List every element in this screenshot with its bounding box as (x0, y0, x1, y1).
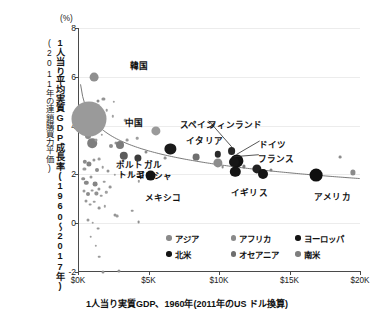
y-axis-title-sub: (2011年の連鎖購買力平価) (45, 38, 54, 173)
y-tick-label: 6 (56, 72, 76, 82)
x-axis-title: 1人当り実質GDP、1960年(2011年のUS ドル換算) (0, 297, 374, 310)
y-tick-label: 0 (56, 218, 76, 228)
y-tick-label: 8 (56, 23, 76, 33)
chart-root: 1人当り平均実質GDP成長率(1960〜2017年) (2011年の連鎖購買力平… (0, 0, 374, 320)
x-tick-label: $10K (202, 276, 236, 285)
x-tick-label: $15K (273, 276, 307, 285)
legend-marker-icon (295, 251, 301, 257)
legend-marker-icon (166, 251, 172, 257)
leader-line-フランス (234, 155, 259, 157)
legend-marker-icon (295, 235, 301, 241)
legend-marker-icon (231, 251, 237, 257)
point-label-ギリシャ: ギリシャ (136, 169, 172, 181)
legend-label: 南米 (304, 248, 320, 260)
leader-line-ドイツ (237, 141, 260, 154)
legend-item-北米[interactable]: 北米 (166, 248, 229, 260)
x-tick-label: $0K (61, 276, 95, 285)
legend-item-アフリカ[interactable]: アフリカ (231, 232, 294, 244)
point-label-韓国: 韓国 (130, 59, 148, 71)
y-tick-label: 2 (56, 169, 76, 179)
point-label-中国: 中国 (125, 116, 143, 128)
legend-label: オセアニア (239, 248, 279, 260)
x-tick-label: $5K (132, 276, 166, 285)
point-label-フランス: フランス (258, 152, 294, 164)
legend-item-オセアニア[interactable]: オセアニア (231, 248, 294, 260)
point-label-イギリス: イギリス (231, 186, 267, 198)
x-tick-label: $20K (343, 276, 374, 285)
legend-item-南米[interactable]: 南米 (295, 248, 358, 260)
point-label-ドイツ: ドイツ (259, 138, 286, 150)
legend-label: アフリカ (239, 232, 271, 244)
point-label-フィンランド: フィンランド (208, 118, 263, 130)
legend-label: アジア (175, 232, 199, 244)
x-tick (360, 271, 361, 275)
legend-marker-icon (166, 235, 172, 241)
legend-label: ヨーロッパ (304, 232, 344, 244)
legend-label: 北米 (175, 248, 191, 260)
y-axis-unit-label: (%) (60, 14, 73, 23)
legend-item-アジア[interactable]: アジア (166, 232, 229, 244)
point-label-イタリア: イタリア (186, 134, 222, 146)
legend: アジアアフリカヨーロッパ北米オセアニア南米 (166, 232, 358, 260)
point-label-メキシコ: メキシコ (145, 191, 181, 203)
legend-marker-icon (231, 235, 237, 241)
point-label-アメリカ: アメリカ (314, 190, 350, 202)
legend-item-ヨーロッパ[interactable]: ヨーロッパ (295, 232, 358, 244)
